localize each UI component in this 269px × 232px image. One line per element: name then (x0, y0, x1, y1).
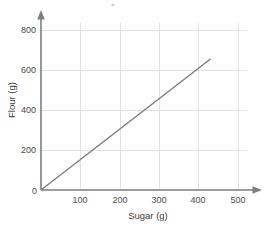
artifact-speck (111, 3, 114, 6)
x-tick-label-500: 500 (230, 195, 245, 205)
y-tick-label-600: 600 (21, 65, 36, 75)
y-tick-label-400: 400 (21, 105, 36, 115)
y-axis-title: Flour (g) (6, 82, 17, 118)
x-tick-label-200: 200 (112, 195, 127, 205)
y-tick-label-200: 200 (21, 145, 36, 155)
x-tick-label-100: 100 (72, 195, 87, 205)
line-chart-figure: 800 600 400 200 0 100 200 300 400 500 Su… (0, 0, 269, 232)
x-tick-label-400: 400 (190, 195, 205, 205)
origin-label: 0 (32, 186, 37, 196)
y-tick-label-800: 800 (21, 25, 36, 35)
x-tick-label-300: 300 (151, 195, 166, 205)
x-axis-title: Sugar (g) (128, 210, 168, 221)
chart-canvas: 800 600 400 200 0 100 200 300 400 500 Su… (0, 0, 269, 232)
